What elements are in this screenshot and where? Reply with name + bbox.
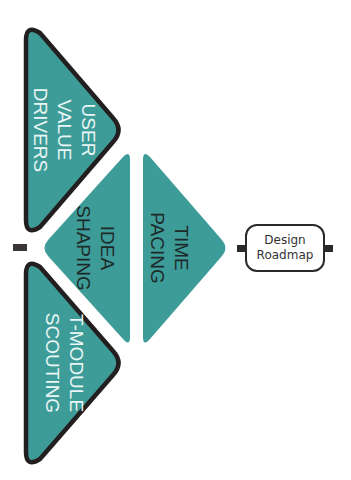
input-connector-marker	[13, 244, 27, 251]
design-roadmap-line2: Roadmap	[257, 248, 314, 263]
box-right-connector	[324, 245, 333, 252]
design-roadmap-box: Design Roadmap	[245, 224, 325, 272]
user-value-drivers-label: USER VALUE DRIVERS	[28, 88, 100, 172]
time-pacing-label: TIME PACING	[145, 212, 193, 283]
idea-shaping-label: IDEA SHAPING	[71, 205, 119, 291]
design-roadmap-line1: Design	[264, 233, 305, 248]
t-module-scouting-label: T-MODULE SCOUTING	[40, 313, 88, 413]
